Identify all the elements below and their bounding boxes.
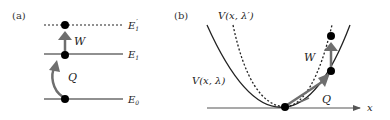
heat-arrowhead-icon xyxy=(49,60,60,72)
state-dot-e1 xyxy=(61,51,69,59)
work-label: W xyxy=(74,35,87,48)
potential-initial-label: V(x, λ) xyxy=(192,75,225,86)
potential-final-label: V(x, λ′) xyxy=(218,10,254,21)
panel-b: (b) x V(x, λ′) V(x, λ) Q W xyxy=(174,10,373,113)
work-label-b: W xyxy=(304,51,317,64)
x-axis-label: x xyxy=(367,102,373,113)
panel-b-label: (b) xyxy=(174,10,188,21)
heat-arrow-b xyxy=(287,80,325,105)
particle-after-heat xyxy=(327,67,335,75)
work-arrowhead-icon xyxy=(58,31,72,40)
particle-initial xyxy=(281,103,289,111)
potential-curve-final xyxy=(233,25,332,107)
heat-label-b: Q xyxy=(322,93,331,106)
state-dot-e1-prime xyxy=(61,21,69,29)
thermodynamic-process-diagram: (a) W Q E1′ E1 E0 (b) x V(x, λ′) V(x, λ)… xyxy=(0,0,390,120)
level-e1-prime-label: E1′ xyxy=(127,18,139,32)
panel-a-label: (a) xyxy=(12,10,26,21)
panel-a: (a) W Q E1′ E1 E0 xyxy=(12,10,139,106)
state-dot-e0 xyxy=(61,95,69,103)
particle-after-work xyxy=(327,32,335,40)
heat-label: Q xyxy=(68,71,77,84)
level-e1-label: E1 xyxy=(127,49,139,61)
level-e0-label: E0 xyxy=(127,94,139,106)
